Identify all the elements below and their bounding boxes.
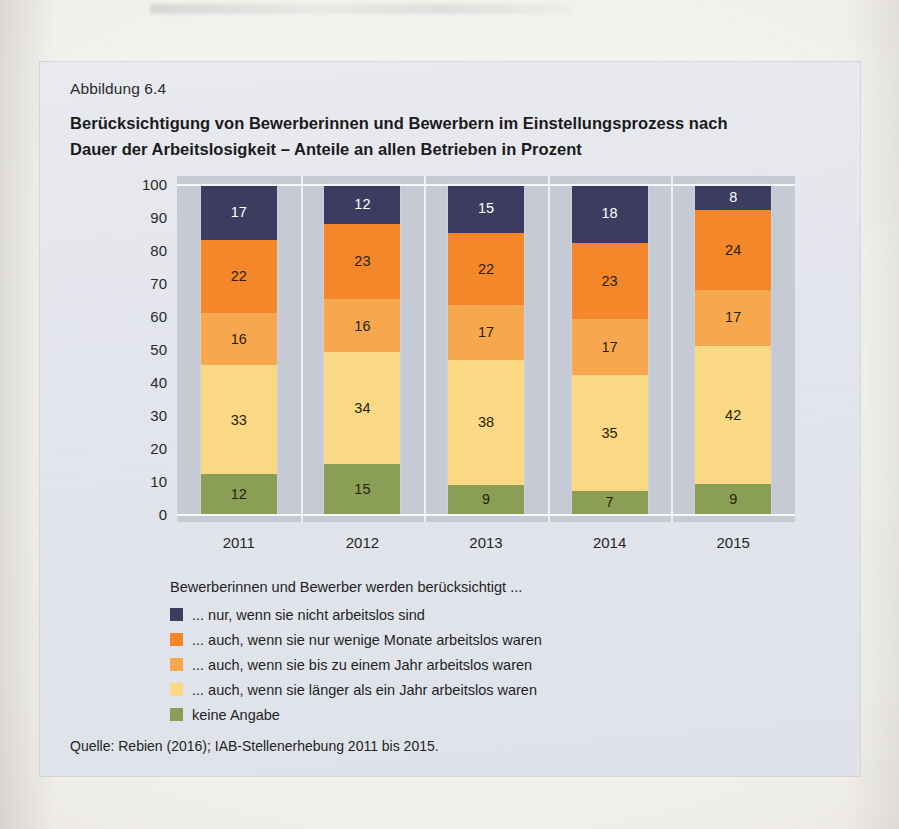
y-axis-tick: 30 [133,407,167,424]
bar-segment[interactable]: 35 [572,375,648,491]
legend-item[interactable]: ... auch, wenn sie länger als ein Jahr a… [170,677,820,702]
bar-segment[interactable]: 23 [324,224,400,300]
x-axis-label: 2012 [301,526,425,556]
legend-color-swatch [170,708,183,721]
bar-segment[interactable]: 17 [695,290,771,346]
bar-group: 1223163415 [301,184,425,514]
legend-rows: ... nur, wenn sie nicht arbeitslos sind.… [170,602,820,727]
bar-segment-value: 9 [729,492,737,507]
stacked-bar[interactable]: 82417429 [695,184,771,514]
bar-segment-value: 24 [725,243,741,258]
bar-groups: 1722163312122316341515221738918231735782… [177,184,795,514]
legend-color-swatch [170,633,183,646]
bar-segment-value: 17 [478,325,494,340]
figure-card: Abbildung 6.4 Berücksichtigung von Bewer… [40,62,860,776]
bar-segment-value: 15 [478,201,494,216]
bar-group: 82417429 [671,184,795,514]
bar-segment-value: 42 [725,408,741,423]
y-axis-tick: 10 [133,473,167,490]
legend-item-label: ... auch, wenn sie bis zu einem Jahr arb… [192,656,532,674]
y-axis-tick: 100 [133,176,167,193]
bar-segment-value: 8 [729,190,737,205]
bar-segment-value: 9 [482,492,490,507]
y-axis-tick: 90 [133,209,167,226]
legend-item-label: ... auch, wenn sie nur wenige Monate arb… [192,631,542,649]
bar-segment[interactable]: 16 [324,299,400,352]
bar-segment-value: 16 [231,332,247,347]
x-axis-label: 2014 [548,526,672,556]
bar-segment[interactable]: 9 [695,484,771,514]
legend-title: Bewerberinnen und Bewerber werden berück… [170,578,820,596]
bar-segment-value: 15 [354,482,370,497]
bar-segment-value: 17 [602,340,618,355]
stacked-bar[interactable]: 182317357 [572,184,648,514]
y-axis-tick: 20 [133,440,167,457]
chart-plot: 0102030405060708090100 17221633121223163… [137,170,815,540]
bar-segment-value: 23 [602,274,618,289]
bar-segment-value: 17 [231,205,247,220]
x-axis-labels: 20112012201320142015 [177,526,795,556]
bar-segment[interactable]: 38 [448,360,524,484]
bar-segment[interactable]: 15 [324,464,400,514]
y-axis-tick: 50 [133,341,167,358]
bar-segment-value: 22 [231,269,247,284]
bar-segment[interactable]: 33 [201,365,277,474]
x-axis-label: 2015 [671,526,795,556]
bar-segment[interactable]: 34 [324,352,400,464]
figure-number: Abbildung 6.4 [70,80,166,98]
y-axis-tick: 60 [133,308,167,325]
axis-line [177,514,795,516]
bar-segment[interactable]: 12 [324,184,400,224]
y-axis-tick: 40 [133,374,167,391]
bar-segment[interactable]: 17 [572,319,648,375]
legend-item[interactable]: keine Angabe [170,702,820,727]
scan-artifact-top-line [150,4,570,14]
bar-segment[interactable]: 12 [201,474,277,514]
y-axis: 0102030405060708090100 [137,170,175,522]
legend-item-label: ... auch, wenn sie länger als ein Jahr a… [192,681,537,699]
bar-segment-value: 16 [354,319,370,334]
bar-segment[interactable]: 9 [448,485,524,514]
figure-headline: Berücksichtigung von Bewerberinnen und B… [70,110,770,162]
bar-segment[interactable]: 16 [201,313,277,366]
legend-color-swatch [170,683,183,696]
bar-segment[interactable]: 7 [572,491,648,514]
stacked-bar[interactable]: 152217389 [448,184,524,514]
bar-segment[interactable]: 42 [695,346,771,485]
source-note: Quelle: Rebien (2016); IAB-Stellenerhebu… [70,738,439,754]
bar-group: 1722163312 [177,184,301,514]
bar-segment-value: 34 [354,401,370,416]
bar-segment-value: 7 [606,495,614,510]
bar-segment[interactable]: 23 [572,243,648,319]
axis-line [177,184,795,186]
bar-segment[interactable]: 22 [448,233,524,305]
legend-item[interactable]: ... auch, wenn sie bis zu einem Jahr arb… [170,652,820,677]
legend-item[interactable]: ... auch, wenn sie nur wenige Monate arb… [170,627,820,652]
bar-segment-value: 38 [478,415,494,430]
legend-item-label: ... nur, wenn sie nicht arbeitslos sind [192,606,425,624]
legend-color-swatch [170,608,183,621]
bar-segment[interactable]: 24 [695,210,771,289]
bar-segment[interactable]: 17 [448,305,524,361]
bar-segment-value: 22 [478,262,494,277]
bar-group: 182317357 [548,184,672,514]
bar-segment[interactable]: 22 [201,240,277,313]
x-axis-label: 2011 [177,526,301,556]
legend-item-label: keine Angabe [192,706,280,724]
chart-legend: Bewerberinnen und Bewerber werden berück… [170,578,820,727]
bar-segment[interactable]: 17 [201,184,277,240]
legend-item[interactable]: ... nur, wenn sie nicht arbeitslos sind [170,602,820,627]
stacked-bar[interactable]: 1722163312 [201,184,277,514]
bar-segment-value: 23 [354,254,370,269]
bar-segment-value: 35 [602,426,618,441]
y-axis-tick: 80 [133,242,167,259]
x-axis-label: 2013 [424,526,548,556]
y-axis-tick: 0 [133,506,167,523]
bar-segment[interactable]: 8 [695,184,771,210]
y-axis-tick: 70 [133,275,167,292]
bar-segment-value: 18 [602,206,618,221]
stacked-bar[interactable]: 1223163415 [324,184,400,514]
bar-segment[interactable]: 18 [572,184,648,243]
bar-segment-value: 12 [231,487,247,502]
bar-segment[interactable]: 15 [448,184,524,233]
